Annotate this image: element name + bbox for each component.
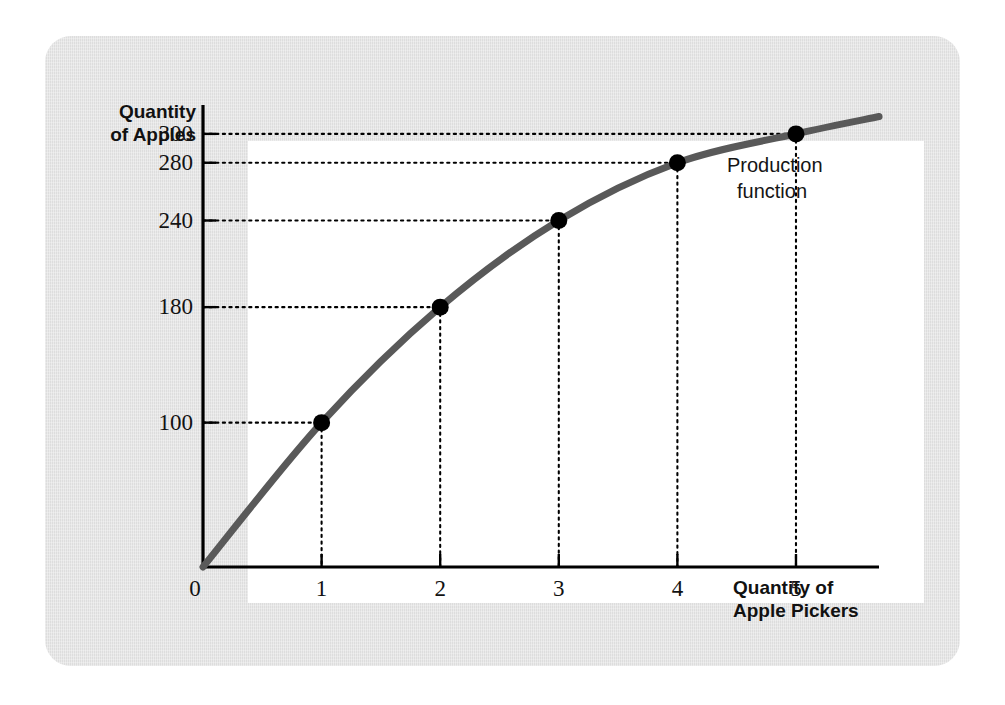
y-tick-label: 180 xyxy=(135,295,193,318)
y-axis-title-line1: Quantity xyxy=(119,101,196,122)
x-tick-label: 5 xyxy=(784,577,808,600)
data-point-marker[interactable] xyxy=(787,125,804,142)
x-axis-title: Quantity of Apple Pickers xyxy=(733,576,913,622)
curve-label-line2: function xyxy=(727,178,877,204)
y-tick-label: 300 xyxy=(135,122,193,145)
y-tick-label: 100 xyxy=(135,411,193,434)
x-tick-label: 4 xyxy=(665,577,689,600)
y-tick-label: 280 xyxy=(135,151,193,174)
x-tick-label: 2 xyxy=(428,577,452,600)
data-point-marker[interactable] xyxy=(432,299,449,316)
data-point-marker[interactable] xyxy=(550,212,567,229)
data-point-marker[interactable] xyxy=(313,414,330,431)
x-axis-title-line2: Apple Pickers xyxy=(733,600,859,621)
production-function-label: Production function xyxy=(727,152,877,204)
axis-ticks-group xyxy=(203,134,796,567)
y-tick-label: 240 xyxy=(135,209,193,232)
curve-label-line1: Production xyxy=(727,154,823,176)
data-point-marker[interactable] xyxy=(669,154,686,171)
x-tick-label: 3 xyxy=(547,577,571,600)
guide-lines-group xyxy=(203,134,796,567)
x-tick-label: 0 xyxy=(183,577,207,600)
x-tick-label: 1 xyxy=(310,577,334,600)
